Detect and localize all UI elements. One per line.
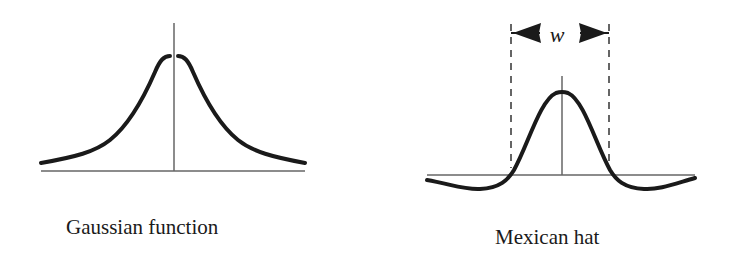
width-arrow-right-icon — [579, 23, 609, 43]
gaussian-curve — [41, 56, 305, 163]
mexican-hat-figure: w — [427, 22, 695, 189]
mexican-hat-caption: Mexican hat — [495, 225, 599, 250]
gaussian-caption: Gaussian function — [66, 215, 218, 240]
width-label: w — [550, 22, 565, 47]
width-arrow-left-icon — [511, 23, 541, 43]
gaussian-figure — [41, 23, 305, 171]
